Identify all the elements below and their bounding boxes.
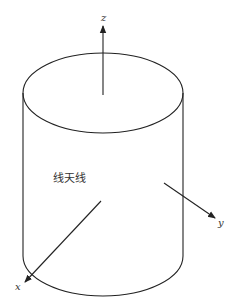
x-axis-arrow [25,201,101,282]
y-axis-arrow [164,183,215,218]
y-axis-label: y [217,217,224,228]
x-axis-label: x [15,281,21,292]
cylinder-bottom-arc [23,256,183,296]
cylinder-coordinate-diagram: z y x 线天线 [0,0,238,307]
z-axis-label: z [100,12,107,23]
wire-antenna-label: 线天线 [53,171,86,185]
